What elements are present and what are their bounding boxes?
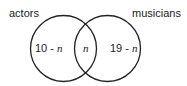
actors-only-var: n (57, 42, 63, 54)
musicians-only-number: 19 - (110, 42, 132, 54)
actors-only-number: 10 - (35, 42, 57, 54)
musicians-only-var: n (132, 42, 138, 54)
intersection-var: n (83, 42, 89, 54)
actors-label: actors (9, 7, 39, 19)
musicians-only-region: 19 - n (110, 42, 138, 54)
intersection-region: n (83, 42, 89, 54)
actors-only-region: 10 - n (35, 42, 63, 54)
musicians-label: musicians (132, 7, 181, 19)
